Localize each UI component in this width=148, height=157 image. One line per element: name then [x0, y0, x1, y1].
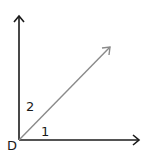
horizontal-ray — [19, 135, 139, 145]
vertex-label: D — [7, 138, 17, 153]
vertical-ray — [14, 16, 24, 140]
angle-1-label: 1 — [41, 124, 49, 139]
diagonal-ray — [19, 47, 110, 140]
angle-2-label: 2 — [26, 99, 34, 114]
angle-diagram: D 2 1 — [0, 0, 148, 157]
